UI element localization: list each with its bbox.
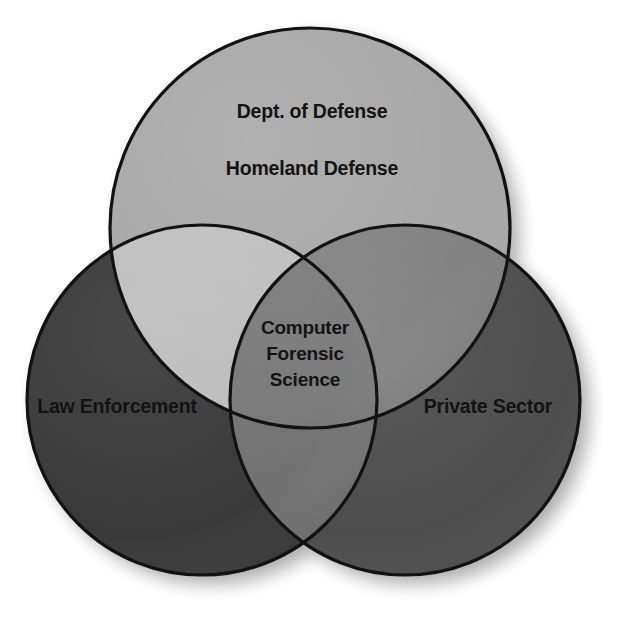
label-center-forensic: Forensic xyxy=(266,343,344,364)
label-private-sector: Private Sector xyxy=(424,395,553,417)
label-dept-of-defense: Dept. of Defense xyxy=(237,100,388,122)
label-homeland-defense: Homeland Defense xyxy=(226,157,399,179)
venn-diagram-svg: Dept. of Defense Homeland Defense Law En… xyxy=(0,0,630,634)
venn-diagram-container: Dept. of Defense Homeland Defense Law En… xyxy=(0,0,630,634)
label-center-computer: Computer xyxy=(261,317,350,338)
label-law-enforcement: Law Enforcement xyxy=(37,395,197,417)
label-center-science: Science xyxy=(270,369,340,390)
